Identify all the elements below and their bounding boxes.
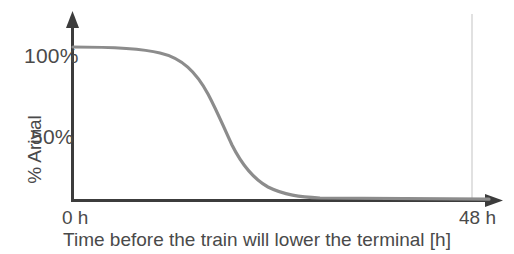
arrival-curve-chart: 100% 50% 0 h 48 h Time before the train …	[0, 0, 514, 254]
x-tick-label-0h: 0 h	[62, 208, 88, 227]
y-axis-title: % Arival	[25, 90, 44, 210]
arrival-curve-path	[73, 47, 489, 199]
arrow-up-icon	[66, 11, 79, 28]
x-tick-label-48h: 48 h	[459, 208, 496, 227]
x-axis-title: Time before the train will lower the ter…	[0, 230, 514, 249]
y-tick-label-100: 100%	[24, 45, 79, 66]
